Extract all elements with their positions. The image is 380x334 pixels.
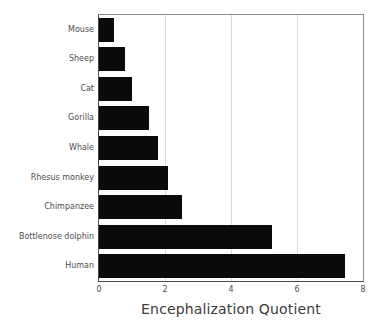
bar-row[interactable] [99, 106, 363, 130]
y-axis-tick-labels: MouseSheepCatGorillaWhaleRhesus monkeyCh… [0, 15, 94, 281]
bar-row[interactable] [99, 18, 363, 42]
x-axis-tick-label: 8 [348, 284, 378, 295]
bar[interactable] [99, 136, 158, 160]
y-axis-tick-label: Chimpanzee [0, 202, 94, 212]
bar[interactable] [99, 18, 114, 42]
y-axis-tick-label: Whale [0, 143, 94, 153]
bar[interactable] [99, 166, 168, 190]
bar-row[interactable] [99, 47, 363, 71]
y-axis-tick-label: Gorilla [0, 113, 94, 123]
x-axis-tick-label: 6 [282, 284, 312, 295]
bar-chart: MouseSheepCatGorillaWhaleRhesus monkeyCh… [0, 0, 380, 334]
bar[interactable] [99, 77, 132, 101]
bar-row[interactable] [99, 136, 363, 160]
y-axis-tick-label: Sheep [0, 54, 94, 64]
plot-area [98, 14, 364, 282]
bar-series [99, 15, 363, 281]
bar-row[interactable] [99, 195, 363, 219]
bar[interactable] [99, 195, 182, 219]
bar[interactable] [99, 225, 272, 249]
bar-row[interactable] [99, 254, 363, 278]
x-axis-tick-label: 0 [84, 284, 114, 295]
x-axis-tick-labels: 02468 [0, 284, 380, 298]
y-axis-tick-label: Mouse [0, 25, 94, 35]
y-axis-tick-label: Human [0, 261, 94, 271]
bar[interactable] [99, 106, 149, 130]
y-axis-tick-label: Rhesus monkey [0, 173, 94, 183]
x-axis-tick-label: 2 [150, 284, 180, 295]
x-axis-title: Encephalization Quotient [99, 300, 363, 318]
bar[interactable] [99, 47, 125, 71]
y-axis-tick-label: Bottlenose dolphin [0, 232, 94, 242]
bar-row[interactable] [99, 225, 363, 249]
x-axis-tick-label: 4 [216, 284, 246, 295]
bar-row[interactable] [99, 77, 363, 101]
y-axis-tick-label: Cat [0, 84, 94, 94]
bar-row[interactable] [99, 166, 363, 190]
bar[interactable] [99, 254, 345, 278]
